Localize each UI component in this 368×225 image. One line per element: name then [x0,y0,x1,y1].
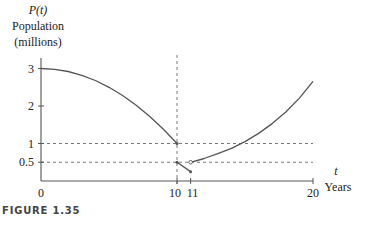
x-tick-label: 10 [169,186,181,200]
population-chart: 0.51230101120 P(t) Population (millions)… [0,0,368,225]
series-line-segment-3 [191,81,313,162]
x-tick-label: 20 [307,186,319,200]
series-line-segment-2 [177,162,191,171]
y-axis-symbol: P(t) [28,3,48,17]
y-tick-label: 3 [28,62,34,76]
y-tick-label: 0.5 [19,155,34,169]
x-tick-label: 0 [38,186,44,200]
reference-lines [41,55,313,185]
y-tick-label: 2 [28,99,34,113]
x-axis-symbol: t [334,164,338,178]
x-axis-label: Years [325,180,352,194]
x-tick-label: 11 [187,186,199,200]
ticks: 0.51230101120 [19,62,319,201]
closed-endpoint-marker [176,142,179,145]
series-line-segment-1 [41,69,177,144]
y-axis-label-line-1: Population [12,19,64,33]
figure-caption: FIGURE 1.35 [2,205,80,216]
closed-endpoint-marker [189,170,192,173]
y-tick-label: 1 [28,137,34,151]
closed-endpoint-marker [176,161,179,164]
y-axis-label-line-2: (millions) [14,35,61,49]
open-endpoint-marker [189,160,193,164]
